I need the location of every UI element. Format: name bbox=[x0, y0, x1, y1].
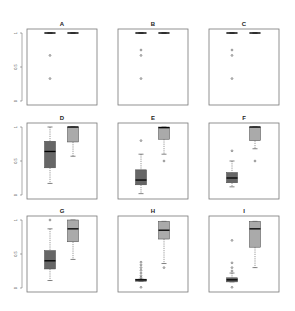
y-tick-label: 0 bbox=[13, 99, 18, 102]
box-2 bbox=[250, 127, 261, 162]
outlier-point bbox=[163, 160, 165, 162]
panel-frame bbox=[118, 29, 188, 105]
panel-d: D00.51 bbox=[13, 115, 97, 199]
panel-title: G bbox=[60, 208, 65, 214]
panel-title: D bbox=[60, 115, 65, 121]
panel-frame bbox=[118, 216, 188, 292]
box-1 bbox=[227, 33, 238, 79]
outlier-point bbox=[49, 78, 51, 80]
outlier-point bbox=[231, 240, 233, 242]
panel-title: F bbox=[242, 115, 246, 121]
outlier-point bbox=[140, 49, 142, 51]
outlier-point bbox=[231, 270, 233, 272]
panel-frame bbox=[118, 123, 188, 199]
outlier-point bbox=[254, 160, 256, 162]
panel-frame bbox=[27, 123, 97, 199]
y-tick-label: 0 bbox=[13, 286, 18, 289]
box-2 bbox=[250, 221, 261, 267]
box-1 bbox=[45, 127, 56, 183]
y-tick-label: 1 bbox=[13, 218, 18, 221]
boxplot-grid: A00.51BCD00.51EFG00.51HI bbox=[0, 0, 295, 311]
box-1 bbox=[136, 140, 147, 194]
box-2 bbox=[68, 220, 79, 259]
outlier-point bbox=[140, 275, 142, 277]
panel-title: E bbox=[151, 115, 155, 121]
panel-frame bbox=[27, 216, 97, 292]
outlier-point bbox=[49, 55, 51, 57]
panel-title: A bbox=[60, 21, 65, 27]
panel-title: I bbox=[243, 208, 245, 214]
panel-title: C bbox=[242, 21, 247, 27]
panel-frame bbox=[209, 123, 279, 199]
panel-b: B bbox=[118, 21, 188, 105]
outlier-point bbox=[140, 277, 142, 279]
box-1 bbox=[227, 240, 238, 289]
outlier-point bbox=[140, 267, 142, 269]
panel-h: H bbox=[118, 208, 188, 292]
panel-g: G00.51 bbox=[13, 208, 97, 292]
panel-frame bbox=[209, 29, 279, 105]
panel-title: H bbox=[151, 208, 155, 214]
panel-i: I bbox=[209, 208, 279, 292]
outlier-point bbox=[231, 78, 233, 80]
box-1 bbox=[136, 33, 147, 79]
y-tick-label: 0.5 bbox=[13, 250, 18, 256]
box-1 bbox=[136, 261, 147, 288]
y-tick-label: 0.5 bbox=[13, 63, 18, 69]
box-1 bbox=[45, 219, 56, 280]
panel-f: F bbox=[209, 115, 279, 199]
box-1 bbox=[227, 150, 238, 187]
outlier-point bbox=[231, 286, 233, 288]
box-2 bbox=[159, 127, 170, 162]
outlier-point bbox=[140, 261, 142, 263]
outlier-point bbox=[231, 267, 233, 269]
box-2 bbox=[159, 221, 170, 268]
outlier-point bbox=[140, 78, 142, 80]
y-tick-label: 0 bbox=[13, 193, 18, 196]
y-tick-label: 1 bbox=[13, 125, 18, 128]
outlier-point bbox=[231, 49, 233, 51]
panel-title: B bbox=[151, 21, 156, 27]
panel-frame bbox=[209, 216, 279, 292]
box-1 bbox=[45, 33, 56, 79]
panel-e: E bbox=[118, 115, 188, 199]
panel-frame bbox=[27, 29, 97, 105]
outlier-point bbox=[231, 150, 233, 152]
box-2 bbox=[68, 127, 79, 156]
outlier-point bbox=[140, 286, 142, 288]
panel-a: A00.51 bbox=[13, 21, 97, 105]
outlier-point bbox=[231, 262, 233, 264]
outlier-point bbox=[49, 219, 51, 221]
y-tick-label: 1 bbox=[13, 31, 18, 34]
outlier-point bbox=[140, 264, 142, 266]
outlier-point bbox=[163, 267, 165, 269]
outlier-point bbox=[140, 272, 142, 274]
y-tick-label: 0.5 bbox=[13, 157, 18, 163]
outlier-point bbox=[140, 140, 142, 142]
panel-c: C bbox=[209, 21, 279, 105]
outlier-point bbox=[140, 55, 142, 57]
outlier-point bbox=[231, 55, 233, 57]
outlier-point bbox=[140, 269, 142, 271]
